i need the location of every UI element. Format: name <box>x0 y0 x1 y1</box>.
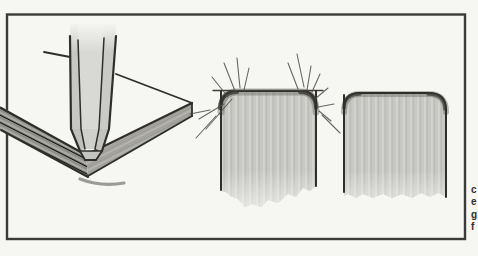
clipped-caption-text: c e g f <box>471 184 478 236</box>
caption-line-3: g <box>471 209 478 221</box>
caption-line-4: f <box>471 221 478 233</box>
caption-line-2: e <box>471 196 478 208</box>
rounded-corner-final <box>340 93 450 212</box>
illustration-canvas <box>0 0 478 256</box>
caption-line-1: c <box>471 184 478 196</box>
scanned-illustration-page: c e g f <box>0 0 478 256</box>
